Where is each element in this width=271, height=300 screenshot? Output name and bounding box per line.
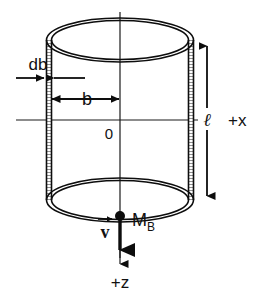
point-mass-dot: [115, 211, 125, 221]
velocity-label: v: [101, 222, 110, 242]
mass-symbol: M: [132, 210, 147, 230]
canvas-background: [0, 0, 271, 300]
length-label: ℓ: [203, 110, 211, 130]
x-axis-label: +x: [228, 111, 247, 130]
b-label: b: [82, 89, 92, 109]
cylinder-shell-diagram: db b ℓ 0 +x MB v: [0, 0, 271, 300]
diagram-canvas: db b ℓ 0 +x MB v: [0, 0, 271, 300]
db-label: db: [29, 55, 48, 74]
origin-label: 0: [105, 125, 113, 142]
mass-subscript: B: [147, 220, 155, 234]
z-axis-label: +z: [111, 273, 129, 292]
